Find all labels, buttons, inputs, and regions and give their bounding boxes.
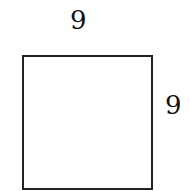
square-shape	[22, 55, 153, 190]
right-side-length-label: 9	[165, 92, 182, 118]
top-side-length-label: 9	[70, 7, 87, 33]
